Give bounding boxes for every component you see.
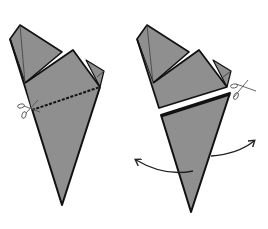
- step-open-figure: [136, 25, 256, 212]
- origami-diagram: [0, 0, 268, 229]
- step-cut-figure: [10, 25, 104, 205]
- open-right-arrow: [211, 141, 254, 156]
- lower-triangle: [161, 93, 230, 212]
- scissors-icon: [230, 80, 256, 100]
